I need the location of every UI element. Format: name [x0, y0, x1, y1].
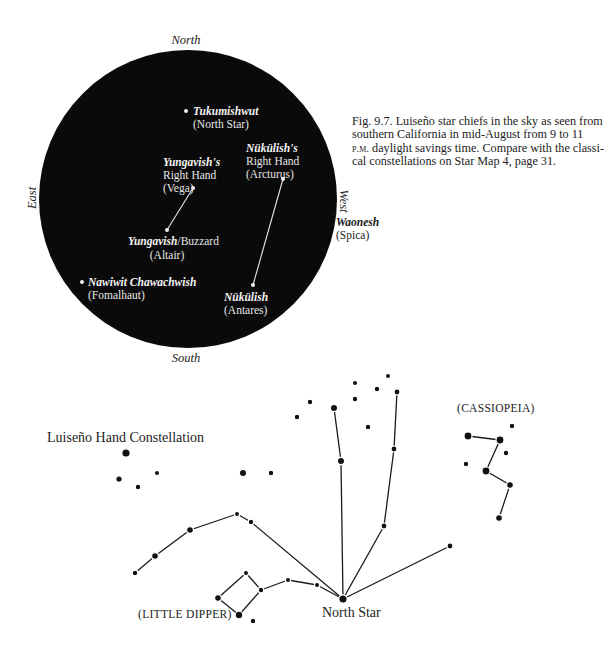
constellation-star [365, 424, 371, 430]
constellation-star [187, 527, 194, 534]
direction-north-label: North [170, 33, 200, 47]
constellation-star [258, 587, 264, 593]
constellation-line [334, 408, 341, 461]
constellation-star [234, 511, 239, 516]
constellation-star [122, 449, 130, 457]
star-label-yungavish-right-hand: Yungavish's [163, 156, 221, 169]
constellation-line [343, 526, 384, 599]
constellation-line [288, 580, 317, 585]
caption-line-2: southern California in mid-August from 9… [352, 128, 609, 141]
caption-line-4: cal constellations on Star Map 4, page 3… [352, 155, 609, 168]
constellation-star [135, 484, 141, 490]
constellation-lines [135, 392, 510, 615]
constellation-star [307, 399, 313, 405]
constellation-line [261, 580, 288, 590]
constellation-star [268, 470, 274, 476]
north-star-label: North Star [322, 605, 381, 620]
star-label-north-star: (North Star) [193, 118, 249, 131]
star-label-arcturus: (Arcturus) [246, 168, 294, 181]
constellation-star [381, 523, 387, 529]
star-label-nukulish: Nükülish [223, 291, 268, 303]
constellation-star [339, 595, 347, 603]
constellation-line [394, 392, 397, 449]
constellation-line [251, 522, 343, 599]
constellation-star [152, 553, 159, 560]
direction-east-label: East [25, 186, 39, 210]
star-label-fomalhaut: (Fomalhaut) [88, 289, 145, 302]
constellation-star [154, 470, 159, 475]
hand-constellation-diagram: Luiseño Hand Constellation (CASSIOPEIA) … [47, 373, 535, 623]
star-label-vega: (Vega) [163, 182, 194, 195]
constellation-star [352, 380, 357, 385]
constellation-stars [116, 373, 515, 623]
constellation-star [503, 450, 509, 456]
constellation-star [463, 461, 469, 467]
constellation-line [239, 590, 261, 615]
constellation-line [218, 573, 246, 598]
figure-caption: Fig. 9.7. Luiseño star chiefs in the sky… [352, 115, 609, 169]
constellation-line [384, 449, 394, 526]
star-label-nawiwit-chawachwish: Nawiwit Chawachwish [87, 276, 196, 288]
constellation-star [215, 595, 222, 602]
constellation-star [250, 618, 256, 624]
star-label-vega-line2: Right Hand [163, 169, 217, 182]
little-dipper-label: (LITTLE DIPPER) [138, 608, 232, 621]
constellation-line [486, 440, 500, 471]
constellation-star [482, 467, 490, 475]
hand-constellation-label: Luiseño Hand Constellation [47, 430, 204, 445]
star-label-nukulish-right-hand: Nükülish's [245, 142, 298, 154]
constellation-star [285, 577, 290, 582]
star-dot-altair [165, 228, 169, 232]
constellation-star [385, 373, 390, 378]
star-dot-antares [251, 283, 255, 287]
star-label-arcturus-line2: Right Hand [246, 155, 300, 168]
caption-line-3: p.m. daylight savings time. Compare with… [352, 142, 609, 155]
constellation-line [155, 530, 190, 556]
constellation-star [352, 396, 358, 402]
direction-south-label: South [172, 351, 200, 365]
direction-west-label: West [337, 189, 351, 213]
constellation-star [330, 404, 337, 411]
constellation-star [337, 457, 344, 464]
constellation-star [394, 389, 400, 395]
constellation-star [496, 515, 503, 522]
sky-circle-chart: North South East West Tukumishwut (North… [25, 33, 379, 365]
constellation-star [294, 414, 300, 420]
star-dot-fomalhaut [80, 280, 84, 284]
star-label-waonesh: Waonesh [336, 216, 379, 228]
constellation-star [464, 432, 472, 440]
caption-line-1: Fig. 9.7. Luiseño star chiefs in the sky… [352, 115, 609, 128]
constellation-line [246, 573, 261, 590]
star-label-buzzard: /Buzzard [177, 235, 219, 247]
constellation-line [499, 485, 510, 518]
caption-line-3-text: daylight savings time. Compare with the … [369, 141, 604, 155]
night-sky-disc [39, 50, 337, 348]
constellation-star [391, 446, 397, 452]
constellation-star [132, 570, 138, 576]
constellation-star [509, 423, 515, 429]
constellation-star [248, 519, 254, 525]
constellation-star [507, 482, 514, 489]
constellation-star [235, 611, 243, 619]
constellation-star [314, 582, 319, 587]
constellation-star [243, 570, 248, 575]
star-dot-tukumishwut [184, 109, 188, 113]
constellation-line [343, 546, 450, 599]
constellation-line [468, 436, 500, 440]
constellation-line [341, 461, 343, 599]
star-label-spica: (Spica) [336, 229, 369, 242]
star-label-tukumishwut: Tukumishwut [193, 105, 259, 117]
star-label-yungavish-buzzard: Yungavish/Buzzard [128, 235, 219, 248]
star-label-yungavish: Yungavish [128, 235, 177, 248]
constellation-star [374, 386, 380, 392]
constellation-star [496, 436, 504, 444]
constellation-star [447, 543, 453, 549]
star-label-antares: (Antares) [224, 304, 268, 317]
star-label-altair: (Altair) [150, 249, 185, 262]
constellation-line [190, 514, 237, 530]
constellation-star [239, 469, 246, 476]
caption-pm: p.m. [352, 142, 369, 154]
constellation-star [116, 476, 122, 482]
cassiopeia-label: (CASSIOPEIA) [457, 402, 535, 415]
